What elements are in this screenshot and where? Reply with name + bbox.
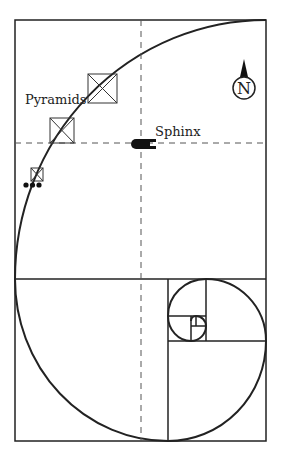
dots-icon: [23, 182, 41, 187]
north-arrow-icon: N: [233, 59, 255, 99]
pyramid-icon: [88, 74, 117, 103]
axis-lines: [15, 20, 266, 441]
pyramid-icon: [50, 118, 74, 143]
golden-spiral-giza-diagram: N Pyramids Sphinx: [0, 0, 282, 455]
sphinx-label: Sphinx: [155, 124, 201, 139]
sphinx-icon: [131, 139, 156, 149]
north-label: N: [237, 79, 251, 98]
pyramid-icon: [31, 168, 43, 181]
pyramids-label: Pyramids: [25, 92, 87, 107]
